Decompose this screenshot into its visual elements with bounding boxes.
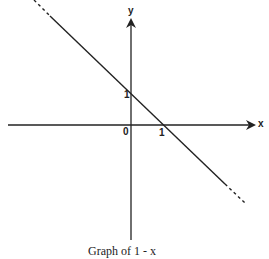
origin-label: 0 (123, 127, 129, 137)
y-axis-label: y (128, 6, 134, 16)
function-line-dashed-top (34, 0, 50, 16)
function-line (50, 16, 225, 184)
function-line-dashed-bottom (225, 184, 245, 203)
y-tick-label-1: 1 (124, 90, 130, 100)
figure-caption: Graph of 1 - x (88, 244, 156, 259)
x-tick-label-1: 1 (159, 128, 165, 138)
x-axis-label: x (258, 119, 264, 129)
